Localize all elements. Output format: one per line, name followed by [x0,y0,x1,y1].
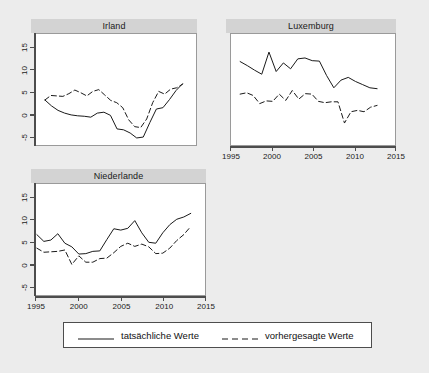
y-tick-irland-0 [30,114,35,115]
legend-label-predicted: vorhergesagte Werte [265,330,354,341]
x-tick-niederlande-1995 [35,297,36,301]
x-tick-niederlande-2010 [163,297,164,301]
series-line-actual [240,52,377,89]
y-tick-niederlande-15 [30,197,35,198]
y-tick-label-irland-15: 15 [20,39,29,57]
plot-lines-irland [36,34,197,146]
x-tick-label-luxemburg-2005: 2005 [300,152,328,161]
panel-luxemburg: Luxemburg 1995 2000 2005 2010 2015 [226,19,396,146]
series-line-actual [37,213,191,254]
figure-canvas: Irland 15 10 5 0 -5 Luxemburg 1995 2000 … [0,0,429,373]
x-tick-label-luxemburg-2000: 2000 [258,152,286,161]
y-tick-niederlande-0 [30,264,35,265]
y-axis-irland [34,33,36,146]
y-tick-niederlande-m5 [30,287,35,288]
panel-niederlande: Niederlande 15 10 5 0 -5 1995 2000 2005 … [31,169,206,296]
x-tick-luxemburg-2000 [272,147,273,151]
y-tick-label-niederlande-10: 10 [20,211,29,229]
plot-area-irland [35,33,197,146]
y-tick-irland-10 [30,69,35,70]
x-tick-label-luxemburg-2010: 2010 [341,152,369,161]
x-tick-luxemburg-2015 [395,147,396,151]
y-tick-label-irland-10: 10 [20,61,29,79]
legend-entry-predicted: vorhergesagte Werte [222,323,354,347]
y-axis-niederlande [34,183,36,296]
y-tick-label-niederlande-0: 0 [20,256,29,274]
y-tick-label-irland-5: 5 [20,84,29,102]
x-tick-niederlande-2000 [78,297,79,301]
panel-title-niederlande: Niederlande [31,169,206,183]
x-tick-label-luxemburg-1995: 1995 [217,152,245,161]
series-line-predicted [240,91,377,124]
panel-title-luxemburg: Luxemburg [226,19,396,33]
series-line-predicted [37,226,191,264]
legend-entry-actual: tatsächliche Werte [78,323,199,347]
x-tick-label-niederlande-2010: 2010 [150,302,178,311]
y-tick-label-niederlande-m5: -5 [20,279,29,297]
panel-irland: Irland 15 10 5 0 -5 [31,19,197,146]
panel-title-irland: Irland [31,19,197,33]
x-tick-luxemburg-2005 [313,147,314,151]
x-tick-niederlande-2015 [205,297,206,301]
y-tick-niederlande-10 [30,219,35,220]
dashed-line-icon [222,334,258,344]
legend-swatch-dashed-icon [222,330,258,340]
footer-artifact [3,355,123,363]
x-tick-luxemburg-1995 [230,147,231,151]
plot-area-niederlande [35,183,206,296]
x-tick-label-luxemburg-2015: 2015 [382,152,410,161]
x-tick-label-niederlande-2015: 2015 [192,302,220,311]
x-tick-label-niederlande-1995: 1995 [22,302,50,311]
y-tick-irland-15 [30,47,35,48]
y-tick-label-niederlande-5: 5 [20,234,29,252]
y-tick-label-irland-0: 0 [20,106,29,124]
plot-lines-niederlande [36,184,206,296]
x-tick-label-niederlande-2000: 2000 [65,302,93,311]
legend-label-actual: tatsächliche Werte [121,330,199,341]
y-tick-label-niederlande-15: 15 [20,189,29,207]
y-tick-label-irland-m5: -5 [20,129,29,147]
series-line-actual [45,84,183,138]
plot-lines-luxemburg [231,34,396,146]
x-tick-luxemburg-2010 [355,147,356,151]
chart-legend: tatsächliche Werte vorhergesagte Werte [63,322,372,348]
x-tick-label-niederlande-2005: 2005 [108,302,136,311]
legend-swatch-solid-icon [78,330,114,340]
y-tick-irland-5 [30,92,35,93]
x-tick-niederlande-2005 [121,297,122,301]
y-tick-irland-m5 [30,137,35,138]
solid-line-icon [78,334,114,344]
y-tick-niederlande-5 [30,242,35,243]
plot-area-luxemburg [230,33,396,146]
